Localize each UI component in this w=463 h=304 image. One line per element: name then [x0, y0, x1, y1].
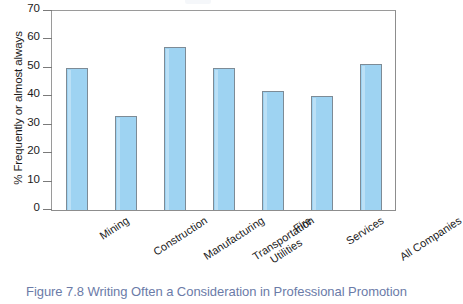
- bar: [115, 116, 137, 210]
- y-axis-tick: 0: [43, 209, 52, 210]
- y-axis-tick-label: 10: [27, 173, 40, 185]
- bar: [164, 47, 186, 210]
- x-axis-label: Mining: [97, 214, 131, 242]
- y-axis-tick-label: 60: [27, 30, 40, 42]
- y-axis-tick: 60: [43, 38, 52, 39]
- y-axis-tick-label: 30: [27, 116, 40, 128]
- x-axis-label-line: Mining: [97, 214, 131, 242]
- y-axis-tick: 70: [43, 10, 52, 11]
- y-axis-tick: 30: [43, 124, 52, 125]
- bar: [360, 64, 382, 210]
- clipped-top-artifact: [185, 0, 211, 4]
- y-axis-title: % Frequently or almost always: [12, 8, 24, 208]
- y-axis-tick: 50: [43, 67, 52, 68]
- y-axis-tick: 20: [43, 152, 52, 153]
- y-axis-tick-label: 40: [27, 87, 40, 99]
- y-axis-tick: 40: [43, 95, 52, 96]
- y-axis-tick-label: 0: [34, 201, 40, 213]
- x-axis-label-line: Services: [343, 214, 385, 247]
- x-axis-label: All Companies: [397, 214, 463, 263]
- figure-caption: Figure 7.8 Writing Often a Consideration…: [26, 284, 407, 299]
- bar: [262, 91, 284, 210]
- plot-inner: 010203040506070: [52, 11, 395, 210]
- bar: [213, 68, 235, 210]
- x-axis-label-line: All Companies: [397, 214, 463, 263]
- bar: [311, 96, 333, 210]
- y-axis-tick: 10: [43, 181, 52, 182]
- plot-area: 010203040506070: [51, 10, 396, 211]
- y-axis-tick-label: 50: [27, 59, 40, 71]
- y-axis-tick-label: 70: [27, 2, 40, 14]
- bar: [66, 68, 88, 210]
- x-axis-label: Services: [343, 214, 385, 247]
- y-axis-tick-label: 20: [27, 144, 40, 156]
